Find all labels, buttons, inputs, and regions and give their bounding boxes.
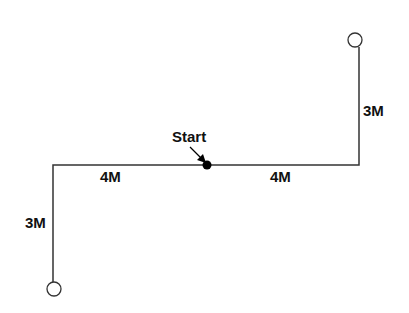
end-circle-top — [348, 33, 362, 47]
path-diagram — [0, 0, 409, 313]
segment-label-left-vertical: 3M — [25, 215, 46, 230]
start-label: Start — [172, 129, 206, 144]
segment-label-left-horizontal: 4M — [100, 169, 121, 184]
end-circle-bottom — [47, 282, 61, 296]
segment-label-right-horizontal: 4M — [270, 169, 291, 184]
segment-label-right-vertical: 3M — [363, 103, 384, 118]
